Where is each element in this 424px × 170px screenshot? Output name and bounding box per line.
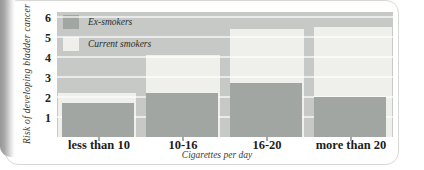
legend-item-current-smokers: Current smokers — [63, 36, 151, 51]
x-axis-title: Cigarettes per day — [57, 150, 377, 160]
y-tick-label-3: 3 — [29, 71, 51, 85]
legend-swatch-current-smokers — [63, 37, 79, 51]
y-tick-label-2: 2 — [29, 91, 51, 105]
x-axis-tick-3 — [350, 137, 352, 141]
bar-ex-smokers-0 — [62, 103, 134, 137]
legend-label-ex-smokers: Ex-smokers — [88, 17, 132, 27]
gridline-3 — [57, 76, 393, 78]
book-figure-scan: Risk of developing bladder cancer 123456… — [0, 0, 424, 170]
page-edge-shadow — [0, 0, 15, 157]
legend-label-current-smokers: Current smokers — [88, 39, 151, 49]
y-tick-label-4: 4 — [29, 51, 51, 65]
bar-ex-smokers-1 — [146, 93, 218, 137]
bar-ex-smokers-3 — [314, 97, 386, 137]
gridline-4 — [57, 56, 393, 58]
y-tick-label-6: 6 — [29, 11, 51, 25]
plot-area: Ex-smokers Current smokers — [57, 12, 393, 137]
gridline-6 — [57, 16, 393, 18]
x-axis-tick-2 — [266, 137, 268, 141]
bar-ex-smokers-2 — [230, 83, 302, 137]
x-axis-tick-0 — [98, 137, 100, 141]
gridline-5 — [57, 36, 393, 38]
x-axis-tick-1 — [182, 137, 184, 141]
y-tick-label-5: 5 — [29, 31, 51, 45]
y-tick-label-1: 1 — [29, 111, 51, 125]
